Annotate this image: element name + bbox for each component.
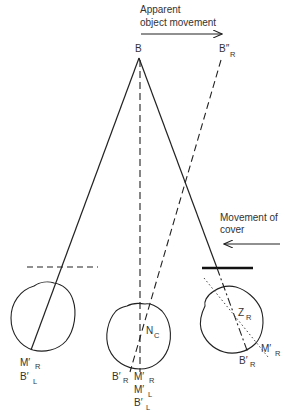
right-visual-axis-line <box>139 58 217 268</box>
apparent-movement-label-line2: object movement <box>140 17 216 28</box>
label-sub: L <box>148 390 152 399</box>
label-main: B′ <box>134 397 143 408</box>
displaced-image-dashed-line <box>130 60 221 372</box>
point-b-double-prime-sub: R <box>230 50 236 59</box>
point-b-label: B <box>135 43 142 54</box>
right-eye-label-b-prime-r: B′ R <box>239 355 256 369</box>
label-sub: R <box>250 360 256 369</box>
left-eye-label-b-prime-l: B′ L <box>20 371 37 386</box>
label-sub: L <box>146 403 150 412</box>
label-sub: C <box>154 331 160 340</box>
label-sub: L <box>33 377 37 386</box>
center-eye-nodal-point-label: N C <box>146 325 160 340</box>
point-b-double-prime-main: B″ <box>219 43 230 54</box>
label-main: M′ <box>261 343 271 354</box>
label-main: B′ <box>20 371 29 382</box>
label-sub: R <box>246 313 252 322</box>
apparent-movement-label-line1: Apparent <box>140 4 181 15</box>
cover-movement-label-line2: cover <box>220 224 245 235</box>
label-main: N <box>146 325 153 336</box>
label-sub: R <box>35 362 41 371</box>
label-main: M′ <box>20 357 30 368</box>
right-eye-fixation-dotted-line <box>204 278 268 357</box>
point-b-double-prime-r-label: B″ R <box>219 43 236 59</box>
label-sub: R <box>149 376 155 385</box>
label-sub: R <box>123 376 129 385</box>
center-eye-outline <box>107 303 171 369</box>
left-eye-label-m-prime-r: M′ R <box>20 357 41 371</box>
label-main: M′ <box>134 384 144 395</box>
label-main: Z <box>238 307 244 318</box>
right-eye: Z R M′ R B′ R <box>200 268 281 369</box>
right-eye-label-m-prime-r: M′ R <box>261 343 281 358</box>
apparent-movement-annotation: Apparent object movement <box>140 4 222 34</box>
cover-movement-annotation: Movement of cover <box>220 212 280 244</box>
center-eye-label-b-prime-r: B′ R <box>112 371 129 385</box>
right-eye-outline <box>200 286 263 353</box>
center-eye: N C B′ R M′ R M′ L B′ L <box>107 303 171 412</box>
label-sub: R <box>275 349 281 358</box>
right-eye-rotation-center-label: Z R <box>238 307 252 322</box>
label-main: M′ <box>134 371 144 382</box>
center-eye-label-m-prime-r: M′ R <box>134 371 155 385</box>
cover-test-diagram: Apparent object movement B B″ R Movement… <box>0 0 285 412</box>
label-main: B′ <box>112 371 121 382</box>
label-main: B′ <box>239 355 248 366</box>
center-eye-label-b-prime-l: B′ L <box>134 397 150 412</box>
cover-movement-label-line1: Movement of <box>220 212 278 223</box>
left-eye: M′ R B′ L <box>11 282 75 386</box>
left-visual-axis-line <box>31 58 139 350</box>
